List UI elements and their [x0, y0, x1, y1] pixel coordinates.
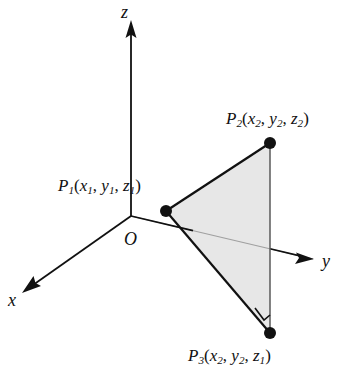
- y-axis-label: y: [322, 252, 330, 270]
- vertex-dot-p2: [264, 137, 276, 149]
- point-label-p2: P2(x2, y2, z2): [226, 110, 309, 127]
- triangle-shaded-region: [166, 143, 270, 333]
- point-label-p2-prefix: P: [226, 109, 236, 128]
- origin-label: O: [124, 230, 137, 248]
- point-label-p1: P1(x1, y1, z1): [58, 177, 141, 194]
- point-label-p1-y: y: [101, 176, 109, 195]
- x-axis-line: [33, 216, 131, 285]
- point-label-p3-z: z: [253, 346, 260, 365]
- point-label-p1-prefix: P: [58, 176, 68, 195]
- point-label-p3-prefix: P: [188, 346, 198, 365]
- z-axis-label: z: [121, 3, 128, 21]
- point-label-p1-z: z: [123, 176, 130, 195]
- point-label-p3-y: y: [231, 346, 239, 365]
- x-axis-label: x: [8, 291, 16, 309]
- y-axis-line-outer: [270, 249, 302, 257]
- vertex-dot-p1: [160, 205, 172, 217]
- point-label-p3: P3(x2, y2, z1): [188, 347, 271, 364]
- diagram-canvas: z x y O P1(x1, y1, z1) P2(x2, y2, z2) P3…: [0, 0, 346, 381]
- vertex-dot-p3: [264, 327, 276, 339]
- y-axis-arrowhead: [295, 253, 314, 265]
- x-axis-arrowhead: [22, 276, 41, 293]
- point-label-p2-z: z: [291, 109, 298, 128]
- point-label-p2-y: y: [269, 109, 277, 128]
- coordinate-diagram-svg: [0, 0, 346, 381]
